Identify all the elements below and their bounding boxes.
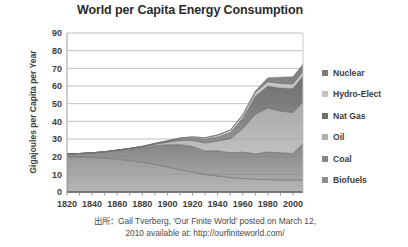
legend-swatch-icon	[322, 156, 328, 162]
legend-label: Biofuels	[333, 175, 367, 185]
svg-text:1900: 1900	[157, 199, 177, 209]
legend-item-hydro-elect[interactable]: Hydro-Elect	[322, 84, 406, 106]
svg-text:80: 80	[52, 46, 62, 56]
svg-text:1980: 1980	[258, 199, 278, 209]
svg-text:2000: 2000	[283, 199, 303, 209]
svg-text:0: 0	[57, 187, 62, 197]
legend-swatch-icon	[322, 113, 328, 119]
source-caption: 出所：Gail Tverberg, 'Our Finite World' pos…	[60, 216, 350, 239]
legend-swatch-icon	[322, 91, 328, 97]
stacked-areas	[67, 64, 303, 192]
svg-text:1920: 1920	[183, 199, 203, 209]
svg-text:60: 60	[52, 81, 62, 91]
legend-label: Oil	[333, 132, 344, 142]
legend-swatch-icon	[322, 134, 328, 140]
legend-item-nat-gas[interactable]: Nat Gas	[322, 105, 406, 127]
legend-item-coal[interactable]: Coal	[322, 148, 406, 170]
svg-text:1940: 1940	[208, 199, 228, 209]
svg-text:40: 40	[52, 117, 62, 127]
legend-item-oil[interactable]: Oil	[322, 127, 406, 149]
svg-text:1960: 1960	[233, 199, 253, 209]
legend-label: Nuclear	[333, 68, 365, 78]
caption-line-1: 出所：Gail Tverberg, 'Our Finite World' pos…	[60, 216, 350, 228]
svg-text:50: 50	[52, 99, 62, 109]
legend-item-biofuels[interactable]: Biofuels	[322, 170, 406, 192]
legend-swatch-icon	[322, 70, 328, 76]
legend-label: Coal	[333, 154, 352, 164]
svg-text:1840: 1840	[82, 199, 102, 209]
svg-text:90: 90	[52, 28, 62, 38]
chart-legend: NuclearHydro-ElectNat GasOilCoalBiofuels	[322, 62, 406, 191]
svg-text:1880: 1880	[132, 199, 152, 209]
legend-swatch-icon	[322, 177, 328, 183]
svg-text:1820: 1820	[57, 199, 77, 209]
svg-text:10: 10	[52, 170, 62, 180]
svg-text:20: 20	[52, 152, 62, 162]
chart-figure: World per Capita Energy Consumption Giga…	[0, 0, 408, 247]
svg-text:1860: 1860	[107, 199, 127, 209]
caption-line-2: 2010 available at: http://ourfiniteworld…	[60, 228, 350, 240]
svg-text:30: 30	[52, 134, 62, 144]
y-axis-ticks: 0102030405060708090	[52, 28, 62, 197]
legend-label: Nat Gas	[333, 111, 365, 121]
svg-text:70: 70	[52, 64, 62, 74]
legend-label: Hydro-Elect	[333, 89, 381, 99]
legend-item-nuclear[interactable]: Nuclear	[322, 62, 406, 84]
x-axis-ticks: 1820184018601880190019201940196019802000	[57, 192, 303, 209]
